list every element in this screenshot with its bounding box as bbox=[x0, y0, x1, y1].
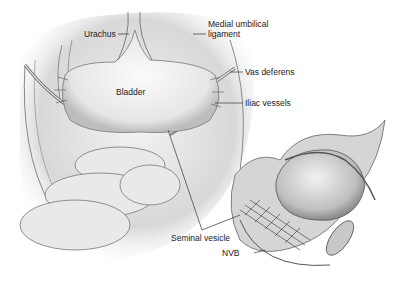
label-nvb: NVB bbox=[222, 248, 239, 258]
sagittal-inset bbox=[231, 120, 385, 265]
label-medial-umbilical-ligament-line2: ligament bbox=[208, 29, 240, 39]
label-seminal-vesicle: Seminal vesicle bbox=[171, 233, 230, 243]
label-iliac-vessels: Iliac vessels bbox=[245, 98, 291, 108]
label-vas-deferens: Vas deferens bbox=[245, 67, 294, 77]
anatomy-illustration bbox=[0, 0, 393, 286]
label-bladder: Bladder bbox=[116, 87, 145, 97]
label-urachus: Urachus bbox=[84, 29, 116, 39]
label-medial-umbilical-ligament-line1: Medial umbilical bbox=[208, 19, 268, 29]
